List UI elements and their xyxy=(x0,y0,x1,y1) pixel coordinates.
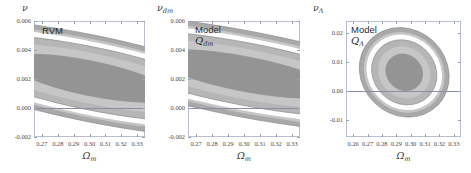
x-tick-label: 0.33 xyxy=(127,140,147,147)
x-tick-mark xyxy=(137,134,138,137)
y-tick-mark-right xyxy=(297,137,300,138)
y-tick-label: 0.002 xyxy=(1,75,31,82)
x-tick-mark xyxy=(90,134,91,137)
x-tick-mark-top xyxy=(137,21,138,24)
x-tick-mark-top xyxy=(411,21,412,24)
x-tick-mark-top xyxy=(353,21,354,24)
panel-model-qdm-x-axis-label: Ωm xyxy=(224,150,264,163)
x-tick-mark-top xyxy=(196,21,197,24)
panel-rvm: ν RVM Ωm 0.0060.0040.0020.000-0.0020.270… xyxy=(0,0,157,173)
x-tick-mark xyxy=(439,134,440,137)
panel-model-qlambda: νΛ Model QΛ Ωm 0.020.010.00-0.010.260.27… xyxy=(311,0,471,173)
panel-rvm-annotation: RVM xyxy=(42,26,63,36)
y-tick-mark-right xyxy=(297,108,300,109)
panel-model-qdm-y-axis-label: νdm xyxy=(157,2,173,15)
y-tick-mark-right xyxy=(458,62,461,63)
panel-model-qlambda-y-axis-label: νΛ xyxy=(313,2,323,15)
x-tick-mark-top xyxy=(368,21,369,24)
y-tick-mark xyxy=(188,79,191,80)
panel-rvm-x-axis-label: Ωm xyxy=(70,150,110,163)
panel-model-qdm-annotation: Model Qdm xyxy=(195,25,221,48)
contour-ellipses xyxy=(34,21,145,137)
x-tick-mark xyxy=(196,134,197,137)
x-tick-mark xyxy=(58,134,59,137)
x-tick-mark-top xyxy=(396,21,397,24)
x-tick-mark-top xyxy=(425,21,426,24)
y-tick-mark-right xyxy=(142,108,145,109)
y-tick-label: -0.01 xyxy=(313,116,343,123)
y-tick-mark-right xyxy=(297,79,300,80)
x-tick-mark-top xyxy=(276,21,277,24)
x-tick-mark-top xyxy=(121,21,122,24)
y-tick-label: 0.000 xyxy=(1,104,31,111)
x-tick-mark-top xyxy=(228,21,229,24)
panel-model-qlambda-annotation: Model QΛ xyxy=(351,25,377,48)
y-tick-mark-right xyxy=(142,79,145,80)
x-tick-mark-top xyxy=(382,21,383,24)
y-tick-label: 0.000 xyxy=(155,104,185,111)
x-tick-mark-top xyxy=(439,21,440,24)
x-tick-mark xyxy=(425,134,426,137)
x-tick-mark xyxy=(42,134,43,137)
x-tick-mark xyxy=(105,134,106,137)
x-tick-mark xyxy=(121,134,122,137)
x-tick-mark xyxy=(454,134,455,137)
y-tick-mark xyxy=(34,108,37,109)
y-tick-mark-right xyxy=(458,91,461,92)
y-tick-label: 0.004 xyxy=(1,46,31,53)
y-tick-mark xyxy=(346,62,349,63)
y-tick-mark xyxy=(346,120,349,121)
y-tick-mark-right xyxy=(142,21,145,22)
x-tick-mark xyxy=(353,134,354,137)
y-tick-mark xyxy=(188,137,191,138)
x-tick-mark xyxy=(228,134,229,137)
y-tick-mark xyxy=(188,108,191,109)
x-tick-mark-top xyxy=(42,21,43,24)
panel-model-qdm: νdm Model Qdm Ωm 0.0060.0040.0020.000-0.… xyxy=(155,0,313,173)
y-tick-mark-right xyxy=(458,120,461,121)
x-tick-mark-top xyxy=(74,21,75,24)
y-tick-mark xyxy=(346,33,349,34)
x-tick-mark-top xyxy=(454,21,455,24)
x-tick-mark xyxy=(368,134,369,137)
y-tick-label: 0.01 xyxy=(313,58,343,65)
panel-rvm-y-axis-label: ν xyxy=(22,2,28,15)
y-tick-mark xyxy=(34,137,37,138)
y-tick-mark-right xyxy=(458,33,461,34)
x-tick-mark xyxy=(260,134,261,137)
x-tick-mark xyxy=(244,134,245,137)
y-tick-label: -0.002 xyxy=(155,133,185,140)
x-tick-mark-top xyxy=(212,21,213,24)
y-tick-label: 0.002 xyxy=(155,75,185,82)
x-tick-label: 0.33 xyxy=(444,140,464,147)
y-tick-mark xyxy=(188,21,191,22)
panel-model-qlambda-x-axis-label: Ωm xyxy=(384,150,424,163)
y-tick-mark xyxy=(34,21,37,22)
y-tick-mark xyxy=(188,50,191,51)
x-tick-mark xyxy=(292,134,293,137)
y-tick-mark-right xyxy=(297,50,300,51)
y-tick-label: 0.004 xyxy=(155,46,185,53)
x-tick-label: 0.33 xyxy=(282,140,302,147)
x-tick-mark-top xyxy=(90,21,91,24)
y-tick-mark-right xyxy=(142,137,145,138)
x-tick-mark xyxy=(276,134,277,137)
y-tick-label: 0.006 xyxy=(155,17,185,24)
y-tick-mark xyxy=(34,50,37,51)
x-tick-mark-top xyxy=(292,21,293,24)
confidence-contour-figure: ν RVM Ωm 0.0060.0040.0020.000-0.0020.270… xyxy=(0,0,471,173)
y-tick-mark-right xyxy=(297,21,300,22)
x-tick-mark-top xyxy=(105,21,106,24)
y-tick-label: 0.00 xyxy=(313,87,343,94)
x-tick-mark-top xyxy=(260,21,261,24)
x-tick-mark xyxy=(411,134,412,137)
y-tick-label: -0.002 xyxy=(1,133,31,140)
panel-model-qlambda-zero-line xyxy=(346,91,461,92)
x-tick-mark xyxy=(74,134,75,137)
y-tick-mark xyxy=(346,91,349,92)
panel-model-qdm-zero-line xyxy=(188,108,300,109)
x-tick-mark xyxy=(396,134,397,137)
panel-rvm-contours xyxy=(34,21,145,137)
x-tick-mark xyxy=(382,134,383,137)
x-tick-mark-top xyxy=(58,21,59,24)
